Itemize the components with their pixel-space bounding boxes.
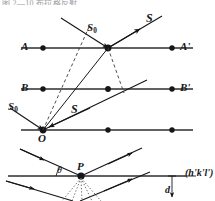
row-a-left-label: A (21, 41, 28, 52)
lattice-point (105, 86, 111, 92)
lattice-row-b (21, 86, 193, 92)
scattered-vector-label-upper: S (146, 12, 153, 24)
dashed-scattered-foot (108, 48, 124, 93)
outgoing-ray-lower-upper (81, 148, 142, 176)
scattered-vector-label-origin: S (71, 103, 78, 115)
lattice-point (105, 127, 110, 132)
scatter-point-label: P (77, 161, 84, 172)
vector-subscript: 0 (93, 27, 97, 35)
lattice-point (40, 86, 45, 91)
figure-root: 图 2—10 布拉格反射 (0, 0, 215, 201)
lattice-point (169, 86, 174, 91)
row-b-right-label: B' (180, 82, 190, 93)
upper-panel-group (10, 16, 193, 133)
vector-subscript: 0 (14, 106, 18, 114)
incident-vector-label-upper: S0 (87, 22, 97, 33)
row-b-left-label: B (21, 82, 28, 93)
scattered-ray-origin (43, 80, 147, 130)
row-a-right-label: A' (180, 41, 190, 52)
incident-vector-label-origin: S0 (8, 101, 18, 112)
lattice-point (40, 45, 45, 50)
plane-index-label: (h'k'l') (185, 168, 213, 178)
incident-ray-lower-upper (20, 149, 81, 176)
lattice-point (169, 127, 174, 132)
dotted-wavefront-fan (62, 178, 101, 201)
dashed-incident-extension (43, 27, 89, 130)
origin-label: O (38, 133, 46, 144)
incident-ray-lower-second (6, 181, 73, 201)
lattice-point (169, 45, 174, 50)
incident-ray-upper (61, 18, 108, 48)
scattered-ray-upper (108, 16, 162, 48)
interplanar-spacing-label: d (165, 185, 170, 195)
theta-angle-label: θ (57, 165, 62, 175)
diffraction-diagram-canvas (0, 0, 215, 201)
